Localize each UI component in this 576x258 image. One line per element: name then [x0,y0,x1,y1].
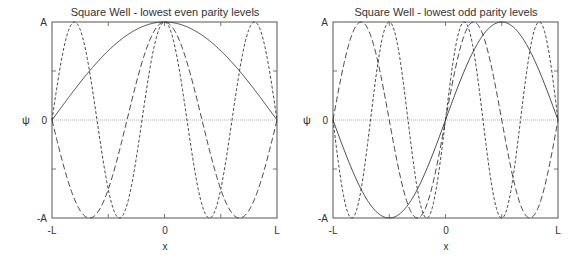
xtick-left: -L [329,225,338,236]
ytick-bot: -A [37,213,47,224]
plot-area [333,22,558,218]
ytick-top: A [321,17,328,28]
odd-parity-panel: Square Well - lowest odd parity levels A… [303,6,561,252]
panel-title: Square Well - lowest even parity levels [71,6,260,18]
even-parity-panel: Square Well - lowest even parity levels … [22,6,280,252]
plot-area [52,22,277,218]
xtick-mid: 0 [443,225,449,236]
ytick-bot: -A [318,213,328,224]
x-axis-label: x [163,241,168,252]
curve-n-1 [52,22,277,120]
figure: Square Well - lowest even parity levels … [0,0,576,258]
xtick-left: -L [48,225,57,236]
ytick-mid: 0 [322,115,328,126]
x-axis-label: x [444,241,449,252]
curve-n-6 [333,22,558,218]
xtick-right: L [274,225,280,236]
y-axis-label: ψ [303,114,311,126]
y-axis-label: ψ [22,114,30,126]
ytick-mid: 0 [41,115,47,126]
xtick-right: L [555,225,561,236]
xtick-mid: 0 [162,225,168,236]
panel-title: Square Well - lowest odd parity levels [354,6,538,18]
ytick-top: A [40,17,47,28]
